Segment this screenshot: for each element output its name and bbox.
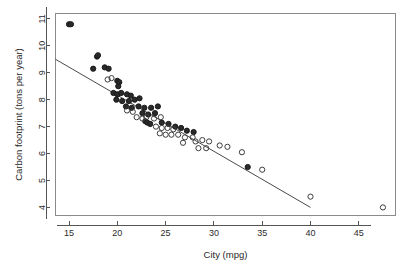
data-point	[191, 129, 196, 134]
data-point	[178, 125, 183, 130]
x-tick-label: 40	[305, 228, 315, 238]
data-point	[148, 121, 153, 126]
data-point	[225, 144, 230, 149]
data-point	[176, 132, 181, 137]
data-point	[106, 66, 111, 71]
data-point	[68, 22, 73, 27]
data-point	[119, 90, 124, 95]
plot-canvas: 152025303540454567891011City (mpg)Carbon…	[0, 0, 416, 265]
data-point	[159, 125, 164, 130]
data-point	[116, 84, 121, 89]
y-axis: 4567891011	[37, 7, 50, 220]
x-tick-label: 20	[112, 228, 122, 238]
data-point	[136, 104, 141, 109]
data-point	[95, 53, 100, 58]
x-tick-label: 25	[161, 228, 171, 238]
y-tick-label: 6	[37, 151, 47, 156]
data-point	[153, 124, 158, 129]
data-point	[217, 143, 222, 148]
data-point	[206, 139, 211, 144]
data-point	[137, 96, 142, 101]
series-open	[105, 76, 385, 210]
data-point	[155, 104, 160, 109]
data-point	[163, 132, 168, 137]
x-tick-label: 35	[257, 228, 267, 238]
data-point	[134, 115, 139, 120]
data-point	[196, 146, 201, 151]
regression-line	[56, 59, 311, 207]
data-point	[169, 132, 174, 137]
data-point	[180, 140, 185, 145]
data-point	[380, 205, 385, 210]
y-tick-label: 10	[37, 41, 47, 51]
y-tick-label: 7	[37, 124, 47, 129]
plot-frame	[56, 14, 396, 216]
data-point	[239, 150, 244, 155]
y-tick-label: 5	[37, 178, 47, 183]
x-axis: 15202530354045	[57, 221, 371, 238]
data-point	[120, 98, 125, 103]
y-axis-title: Carbon footprint (tons per year)	[13, 48, 24, 181]
data-point	[149, 105, 154, 110]
data-point	[157, 131, 162, 136]
scatter-plot-figure: 152025303540454567891011City (mpg)Carbon…	[0, 0, 416, 265]
data-point	[152, 111, 157, 116]
data-point	[182, 135, 187, 140]
data-point	[308, 194, 313, 199]
y-tick-label: 4	[37, 205, 47, 210]
data-point	[91, 66, 96, 71]
data-point	[126, 98, 131, 103]
y-tick-label: 9	[37, 70, 47, 75]
x-tick-label: 15	[64, 228, 74, 238]
series-filled	[66, 22, 250, 170]
x-tick-label: 30	[209, 228, 219, 238]
x-axis-title: City (mpg)	[204, 249, 248, 260]
y-tick-label: 11	[37, 14, 47, 23]
x-tick-label: 45	[354, 228, 364, 238]
data-point	[245, 164, 250, 169]
data-point	[142, 105, 147, 110]
data-point	[114, 97, 119, 102]
data-point	[260, 167, 265, 172]
data-point	[184, 128, 189, 133]
y-tick-label: 8	[37, 97, 47, 102]
data-point	[200, 137, 205, 142]
data-point	[158, 115, 163, 120]
data-point	[159, 120, 164, 125]
